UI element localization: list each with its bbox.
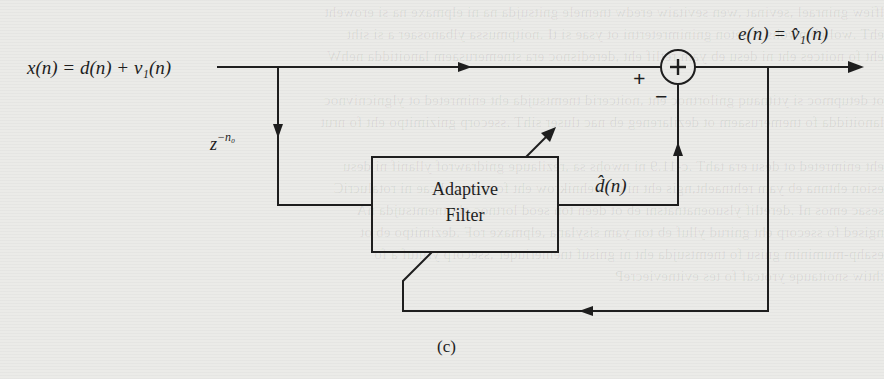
delay-label-exponent: −n₀	[217, 130, 235, 144]
output-signal-label: e(n) = v̂₁(n)	[738, 23, 828, 45]
minus-input-sign: −	[655, 84, 668, 110]
filter-output-label: d̂(n)	[595, 175, 627, 197]
filter-output-arrow	[673, 142, 683, 156]
feedback-arrow	[579, 306, 593, 316]
input-arrow	[458, 62, 472, 72]
output-arrow-icon	[848, 61, 864, 73]
adaptive-filter-label: Adaptive Filter	[372, 176, 558, 228]
plus-input-sign: +	[633, 66, 646, 92]
delay-label: z−n₀	[210, 132, 235, 155]
delay-arrow	[273, 124, 283, 138]
delay-branch-line	[278, 67, 372, 205]
filter-label-line1: Adaptive	[372, 176, 558, 202]
adaptation-arrow-line	[526, 135, 548, 157]
delay-label-base: z	[210, 134, 217, 154]
figure-caption: (c)	[437, 337, 456, 357]
filter-label-line2: Filter	[372, 202, 558, 228]
input-signal-label: x(n) = d(n) + v₁(n)	[27, 57, 171, 79]
